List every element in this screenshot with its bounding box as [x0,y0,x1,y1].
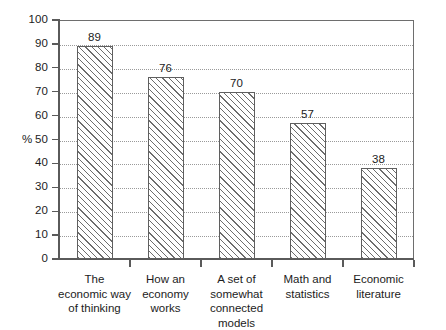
x-axis-tick [413,260,414,267]
y-axis-tick-label: 20 [0,205,48,217]
y-axis-tick-label: 70 [0,86,48,98]
y-axis-tick [52,258,59,259]
y-axis-title: % [22,133,32,145]
bar [77,46,113,259]
y-axis-tick-label: 80 [0,62,48,74]
y-axis-tick-label: 40 [0,157,48,169]
y-axis-tick [52,19,59,20]
bar [219,92,255,259]
x-axis-category-label: Economic literature [337,272,420,301]
bar [361,168,397,259]
bar-value-label: 70 [207,77,267,89]
y-axis-tick [52,163,59,164]
bar [290,123,326,259]
x-axis-tick [200,260,201,267]
y-axis-tick [52,187,59,188]
y-axis-tick [52,139,59,140]
y-axis-tick-label: 0 [0,253,48,265]
x-axis-tick [271,260,272,267]
y-axis-tick-label: 30 [0,181,48,193]
bar-value-label: 89 [65,31,125,43]
y-axis-tick [52,115,59,116]
bar [148,77,184,259]
y-axis-tick [52,211,59,212]
bar-value-label: 38 [349,153,409,165]
y-axis-tick [52,91,59,92]
y-axis-tick-label: 90 [0,38,48,50]
x-axis-tick [342,260,343,267]
bar-value-label: 57 [278,108,338,120]
x-axis-tick [129,260,130,267]
bar-value-label: 76 [136,62,196,74]
y-axis-tick-label: 10 [0,229,48,241]
y-axis-tick-label: 60 [0,110,48,122]
y-axis-tick [52,234,59,235]
y-axis-tick [52,67,59,68]
y-axis-tick [52,43,59,44]
y-axis-tick-label: 100 [0,14,48,26]
